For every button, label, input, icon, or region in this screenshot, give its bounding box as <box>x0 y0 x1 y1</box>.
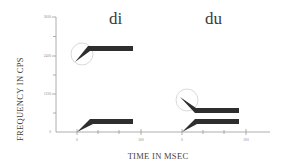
x-tick-du-0: 0 <box>181 138 183 142</box>
formant-f1-du <box>182 119 239 132</box>
y-axis: 3600 2400 1200 0 <box>44 15 56 134</box>
panel-label-du: du <box>205 9 223 28</box>
x-tick-di-0: 0 <box>76 138 78 142</box>
formant-chart: FREQUENCY IN CPS di du 3600 2400 1200 0 … <box>0 0 282 167</box>
panel-label-di: di <box>109 9 123 28</box>
y-tick-0: 0 <box>49 130 51 134</box>
y-tick-3600: 3600 <box>44 15 51 19</box>
formant-f2-di <box>75 46 133 62</box>
formant-f1-di <box>77 119 133 132</box>
x-axis-title: TIME IN MSEC <box>128 151 189 161</box>
panel-du <box>176 89 239 132</box>
x-axis: 0 300 0 300 <box>56 129 270 142</box>
y-axis-title: FREQUENCY IN CPS <box>15 57 25 141</box>
y-tick-2400: 2400 <box>44 54 51 58</box>
y-tick-1200: 1200 <box>44 92 51 96</box>
x-tick-di-300: 300 <box>138 138 144 142</box>
panel-di <box>71 43 133 132</box>
x-tick-du-300: 300 <box>243 138 249 142</box>
